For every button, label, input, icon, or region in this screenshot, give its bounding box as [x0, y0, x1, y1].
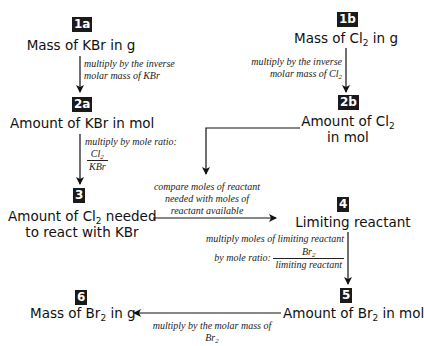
note-line: Br2: [148, 332, 276, 344]
step-badge-4: 4: [337, 197, 349, 212]
edge-note-mole-ratio-cl2-kbr: multiply by mole ratio: Cl2 KBr: [85, 136, 177, 173]
node-amount-kbr: Amount of KBr in mol: [10, 115, 152, 131]
node-amount-cl2: Amount of Cl2 in mol: [300, 113, 396, 145]
node-mass-kbr: Mass of KBr in g: [20, 37, 142, 53]
edge-note-compare-moles: compare moles of reactant needed with mo…: [148, 181, 266, 217]
edge-note-inverse-molar-mass-cl2: multiply by the inverse molar mass of Cl…: [232, 56, 342, 80]
fraction-denominator: limiting reactant: [273, 259, 344, 271]
text: by mole ratio:: [214, 252, 271, 263]
note-line: multiply by the molar mass of: [148, 320, 276, 332]
edge-note-molar-mass-br2: multiply by the molar mass of Br2: [148, 320, 276, 344]
subscript: 2: [215, 337, 219, 345]
fraction-denominator: KBr: [87, 161, 108, 173]
note-line: multiply by mole ratio:: [85, 136, 177, 148]
edge-note-mole-ratio-br2: multiply moles of limiting reactant by m…: [190, 233, 344, 271]
step-badge-6: 6: [75, 290, 87, 305]
step-badge-5: 5: [340, 288, 352, 303]
note-line: compare moles of reactant: [148, 181, 266, 193]
subscript: 2: [339, 73, 343, 81]
step-badge-1a: 1a: [72, 17, 92, 32]
text: Amount of Cl: [8, 208, 96, 224]
text: Amount of Br: [283, 305, 372, 321]
node-mass-cl2: Mass of Cl2 in g: [290, 30, 402, 46]
text: Br: [205, 332, 215, 343]
subscript: 2: [389, 121, 395, 131]
text: in g: [369, 30, 398, 46]
note-line: by mole ratio: Br2 limiting reactant: [190, 246, 344, 271]
node-line: in mol: [300, 129, 396, 145]
note-line: multiply by the inverse: [232, 56, 342, 68]
text: molar mass of Cl: [270, 68, 339, 79]
node-mass-br2: Mass of Br2 in g: [30, 305, 134, 321]
step-badge-2b: 2b: [338, 95, 359, 110]
note-line: molar mass of Cl2: [232, 68, 342, 80]
numerator-subscript: 2: [100, 153, 104, 161]
node-limiting-reactant: Limiting reactant: [290, 214, 416, 230]
mole-ratio-fraction: Cl2 KBr: [87, 148, 108, 173]
note-line: needed with moles of: [148, 193, 266, 205]
fraction-numerator: Cl2: [87, 148, 108, 161]
text: Mass of Br: [30, 305, 100, 321]
step-badge-3: 3: [73, 188, 85, 203]
note-line: molar mass of KBr: [84, 70, 175, 82]
node-amount-cl2-needed: Amount of Cl2 needed to react with KBr: [8, 208, 156, 240]
node-line: Amount of Cl2: [300, 113, 396, 129]
note-line: multiply moles of limiting reactant: [190, 233, 344, 245]
fraction-numerator: Br2: [273, 246, 344, 259]
text: Amount of Cl: [301, 113, 389, 129]
note-line: reactant available: [148, 205, 266, 217]
numerator-text: Br: [302, 246, 312, 257]
node-line: to react with KBr: [8, 224, 156, 240]
numerator-subscript: 2: [312, 251, 316, 259]
step-badge-1b: 1b: [337, 12, 358, 27]
node-amount-br2: Amount of Br2 in mol: [283, 305, 417, 321]
text: in g: [106, 305, 135, 321]
mole-ratio-fraction: Br2 limiting reactant: [273, 246, 344, 271]
node-line: Amount of Cl2 needed: [8, 208, 156, 224]
text: Mass of Cl: [294, 30, 363, 46]
step-badge-2a: 2a: [72, 97, 92, 112]
note-line: multiply by the inverse: [84, 58, 175, 70]
numerator-text: Cl: [91, 148, 100, 159]
edge-note-inverse-molar-mass-kbr: multiply by the inverse molar mass of KB…: [84, 58, 175, 82]
text: in mol: [378, 305, 424, 321]
